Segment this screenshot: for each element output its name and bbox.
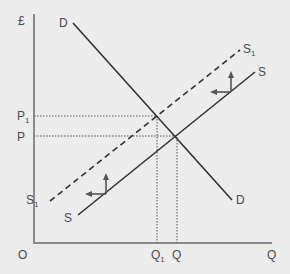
arrow-up-lower-head (103, 173, 109, 180)
supply-label-top: S (258, 65, 266, 79)
origin-label: O (18, 248, 27, 262)
supply1-label-top: S1 (243, 42, 256, 58)
supply-label-bottom: S (64, 211, 72, 225)
demand-curve-d (73, 23, 232, 200)
arrow-up-upper-head (228, 71, 234, 78)
price-label-p1: P1 (17, 109, 30, 125)
y-axis-label: £ (18, 14, 25, 28)
quantity-label-q1: Q1 (151, 248, 165, 264)
price-label-p: P (17, 130, 25, 144)
p1-guide-line (34, 116, 157, 243)
shift-arrow-upper (210, 71, 234, 95)
supply1-label-bottom: S1 (26, 193, 39, 209)
arrow-left-lower-head (85, 191, 92, 197)
supply-demand-diagram: £ Q O D D S S S1 S1 P1 P Q1 Q (0, 0, 290, 274)
demand-label-top: D (59, 16, 68, 30)
quantity-label-q: Q (172, 248, 181, 262)
x-axis-label: Q (267, 248, 276, 262)
arrow-left-upper-head (210, 89, 217, 95)
demand-label-bottom: D (236, 193, 245, 207)
shift-arrow-lower (85, 173, 109, 197)
